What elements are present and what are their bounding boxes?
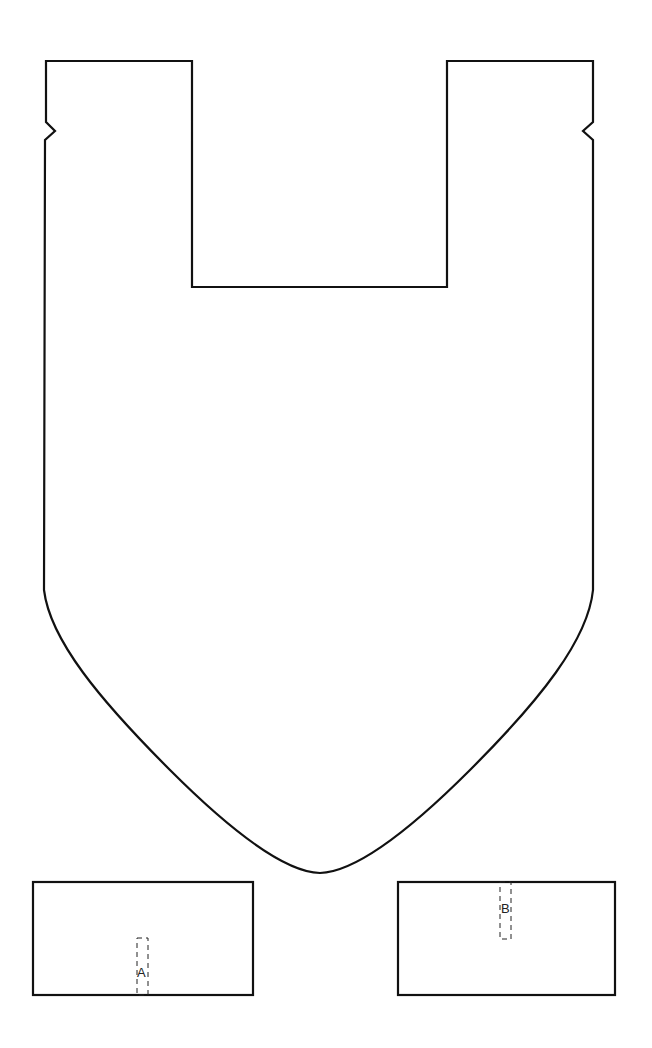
pattern-canvas: A B [0,0,652,1048]
strap-a-label: A [137,965,146,980]
strap-b-label: B [501,901,510,916]
main-pattern-piece [44,61,593,873]
